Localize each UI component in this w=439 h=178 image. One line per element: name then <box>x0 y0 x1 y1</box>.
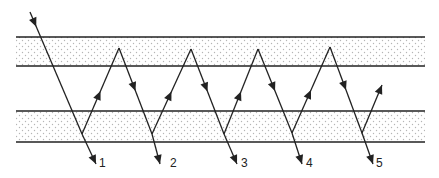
arrowhead-icon <box>366 154 374 164</box>
ray-label-5: 5 <box>376 156 383 170</box>
ray-label-3: 3 <box>241 156 248 170</box>
arrowhead-icon <box>129 81 136 91</box>
arrowhead-icon <box>154 154 162 164</box>
arrowhead-icon <box>201 82 208 92</box>
ray-label-2: 2 <box>170 156 177 170</box>
ray-label-4: 4 <box>306 156 313 170</box>
reflection-diagram: 12345 <box>0 0 439 178</box>
labels-group: 12345 <box>99 156 383 170</box>
top-layer <box>16 37 425 66</box>
arrowhead-icon <box>339 80 346 90</box>
diagram-svg: 12345 <box>0 0 439 178</box>
ray-label-1: 1 <box>99 156 106 170</box>
arrowhead-icon <box>295 154 303 164</box>
